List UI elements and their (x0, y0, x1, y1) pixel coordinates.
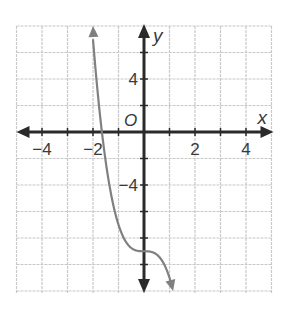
origin-label: O (124, 111, 137, 130)
y-axis-up-arrow-icon (138, 24, 150, 38)
x-tick-label: −4 (32, 140, 51, 159)
x-axis-left-arrow-icon (17, 126, 30, 138)
y-tick-label: 4 (129, 70, 138, 89)
y-axis-down-arrow-icon (138, 279, 150, 293)
y-tick-label: −4 (119, 176, 138, 195)
curve-bottom-arrow-icon (166, 279, 176, 291)
x-axis-label: x (257, 107, 269, 128)
x-tick-label: −2 (83, 140, 102, 159)
y-axis-label: y (151, 25, 164, 46)
cubic-graph: x y O −4−2244−4 (0, 0, 288, 309)
curve-top-arrow-icon (88, 26, 98, 37)
x-tick-label: 4 (241, 140, 250, 159)
x-tick-label: 2 (190, 140, 199, 159)
